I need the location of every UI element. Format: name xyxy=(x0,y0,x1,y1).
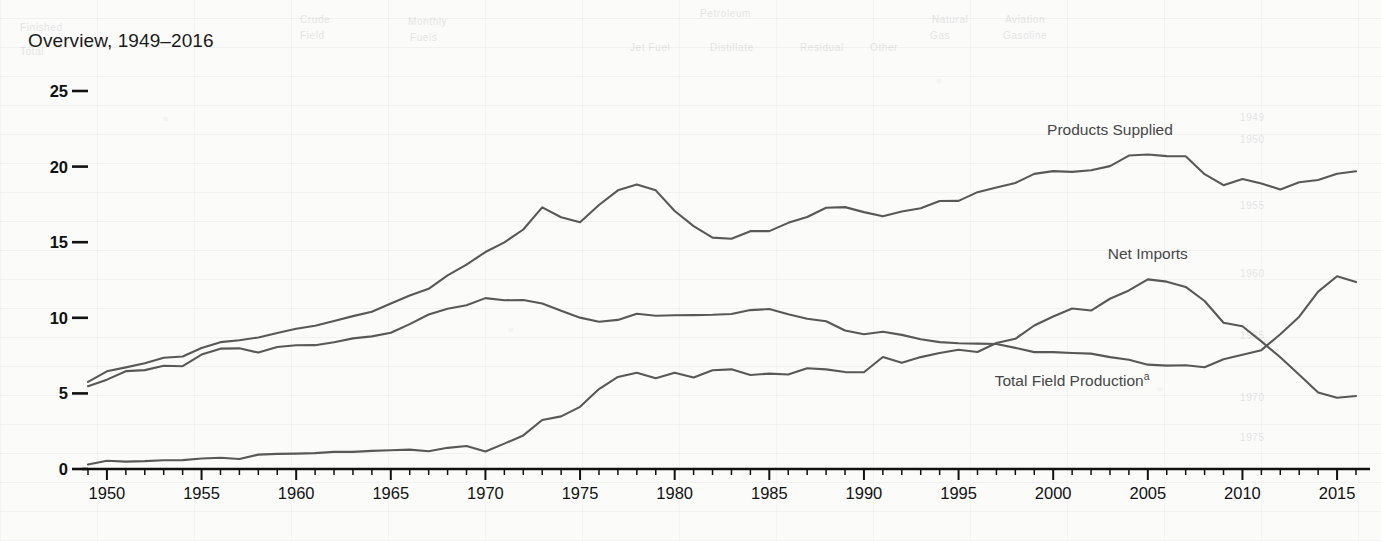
series-label-net-imports: Net Imports xyxy=(1108,245,1188,262)
x-tick-label: 1960 xyxy=(278,484,315,502)
x-axis-ticks xyxy=(88,469,1356,480)
x-tick-label: 1955 xyxy=(183,484,220,502)
data-series-lines xyxy=(88,155,1356,465)
x-tick-label: 2015 xyxy=(1319,484,1356,502)
line-chart-plot: 0510152025 19501955196019651970197519801… xyxy=(0,0,1381,541)
y-tick-label: 25 xyxy=(50,82,68,100)
x-tick-label: 1950 xyxy=(89,484,126,502)
series-label-products-supplied: Products Supplied xyxy=(1047,121,1173,138)
y-tick-label: 20 xyxy=(50,158,68,176)
y-axis-labels: 0510152025 xyxy=(50,82,68,478)
x-tick-label: 1995 xyxy=(940,484,977,502)
y-tick-label: 15 xyxy=(50,233,68,251)
y-tick-label: 0 xyxy=(59,460,68,478)
x-tick-label: 1985 xyxy=(751,484,788,502)
series-line-net-imports xyxy=(88,279,1356,464)
x-tick-label: 1970 xyxy=(467,484,504,502)
y-axis-ticks xyxy=(72,91,88,469)
series-annotations: Products SuppliedNet ImportsTotal Field … xyxy=(995,121,1188,389)
series-label-total-field-production: Total Field Productiona xyxy=(995,370,1150,389)
x-tick-label: 1965 xyxy=(372,484,409,502)
x-tick-label: 1990 xyxy=(846,484,883,502)
y-tick-label: 10 xyxy=(50,309,68,327)
x-tick-label: 2000 xyxy=(1035,484,1072,502)
x-tick-label: 2010 xyxy=(1224,484,1261,502)
footnote-marker: a xyxy=(1144,370,1150,382)
x-tick-label: 2005 xyxy=(1129,484,1166,502)
y-tick-label: 5 xyxy=(59,384,68,402)
x-tick-label: 1975 xyxy=(562,484,599,502)
chart-page: CrudeMonthlyPetroleumNaturalAviationFini… xyxy=(0,0,1381,541)
x-axis-labels: 1950195519601965197019751980198519901995… xyxy=(89,484,1356,502)
x-tick-label: 1980 xyxy=(656,484,693,502)
